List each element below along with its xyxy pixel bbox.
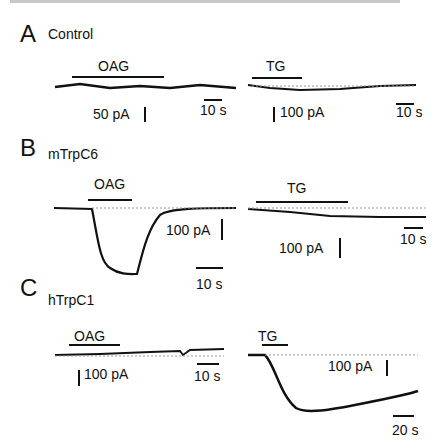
traces	[0, 0, 442, 448]
